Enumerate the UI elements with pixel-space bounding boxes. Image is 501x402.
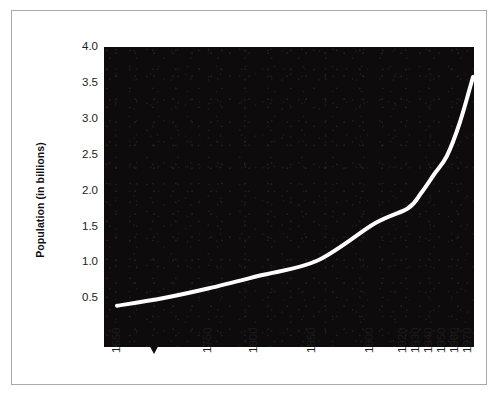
population-line [117, 77, 473, 306]
y-tick-label: 3.0 [64, 113, 98, 125]
x-tick-label: 1920 [397, 327, 409, 353]
plot-area [104, 47, 474, 347]
y-tick-label: 4.0 [64, 41, 98, 53]
x-tick-label: 1900 [364, 327, 376, 353]
x-tick-label: 1950 [436, 327, 448, 353]
period-marker-icon [147, 341, 161, 354]
x-tick-label: 1650 [111, 327, 123, 353]
x-tick-label: 1750 [202, 327, 214, 353]
y-axis-title: Population (in billions) [34, 125, 46, 275]
y-tick-label: 1.5 [64, 221, 98, 233]
x-tick-label: 1960 [449, 327, 461, 353]
x-tick-label: 1930 [410, 327, 422, 353]
y-tick-label: 2.5 [64, 149, 98, 161]
x-tick-label: 1940 [423, 327, 435, 353]
y-tick-label: 0.5 [64, 292, 98, 304]
x-tick-label: 1800 [248, 327, 260, 353]
x-tick-label: 1970 [462, 327, 474, 353]
population-curve-svg [104, 47, 474, 347]
figure-frame: Population (in billions) 4.0 3.5 3.0 2.5… [11, 10, 487, 385]
y-tick-label: 2.0 [64, 185, 98, 197]
y-tick-label: 3.5 [64, 77, 98, 89]
y-tick-label: 1.0 [64, 256, 98, 268]
y-axis-tick-labels: 4.0 3.5 3.0 2.5 2.0 1.5 1.0 0.5 [62, 11, 98, 402]
x-tick-label: 1850 [306, 327, 318, 353]
